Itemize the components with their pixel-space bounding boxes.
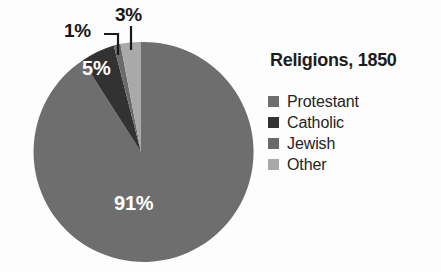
legend-swatch-protestant: [268, 96, 279, 107]
legend-swatch-other: [268, 159, 279, 170]
legend-list: Protestant Catholic Jewish Other: [268, 91, 441, 175]
legend-item-other[interactable]: Other: [268, 154, 441, 175]
legend-item-protestant[interactable]: Protestant: [268, 91, 441, 112]
pie-chart-screenshot: 91% 5% 1% 3% Religions, 1850 Protestant …: [0, 0, 441, 272]
legend-item-jewish[interactable]: Jewish: [268, 133, 441, 154]
legend-label-catholic: Catholic: [287, 113, 344, 132]
slice-label-catholic: 5%: [82, 57, 111, 80]
pie-slice-protestant[interactable]: [34, 42, 254, 262]
legend-label-other: Other: [287, 155, 327, 174]
legend-item-catholic[interactable]: Catholic: [268, 112, 441, 133]
legend-label-protestant: Protestant: [287, 92, 359, 111]
slice-label-protestant: 91%: [114, 192, 153, 215]
slice-label-other: 3%: [115, 4, 142, 26]
legend-label-jewish: Jewish: [287, 134, 335, 153]
legend-swatch-catholic: [268, 117, 279, 128]
legend-block: Religions, 1850 Protestant Catholic Jewi…: [268, 50, 441, 175]
legend-swatch-jewish: [268, 138, 279, 149]
chart-title: Religions, 1850: [270, 50, 441, 71]
pie-chart-svg: [0, 0, 265, 272]
slice-label-jewish: 1%: [64, 20, 91, 42]
pie-chart-figure: 91% 5% 1% 3%: [0, 0, 265, 272]
